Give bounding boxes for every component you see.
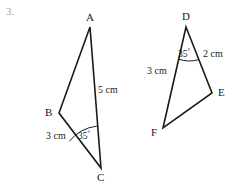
triangle-diagram-canvas bbox=[0, 0, 241, 184]
side-bc-length-label: 3 cm bbox=[46, 131, 66, 141]
side-de-length-label: 2 cm bbox=[203, 49, 223, 59]
triangle-def-outline bbox=[163, 27, 212, 128]
angle-d-degree-symbol: ° bbox=[188, 47, 191, 54]
side-ca-length-label: 5 cm bbox=[98, 85, 118, 95]
angle-c-degree-symbol: ° bbox=[88, 129, 91, 136]
angle-d-value: 35 bbox=[178, 49, 188, 59]
angle-d-label: 35° bbox=[178, 48, 190, 60]
vertex-label-d: D bbox=[182, 11, 190, 22]
triangle-def bbox=[163, 27, 212, 128]
geometry-figure: 3. A B C 5 cm 3 cm 35° D E F 2 cm 3 cm 3… bbox=[0, 0, 241, 184]
triangle-abc-outline bbox=[59, 27, 101, 168]
side-df-length-label: 3 cm bbox=[147, 66, 167, 76]
angle-c-value: 35 bbox=[78, 131, 88, 141]
vertex-label-c: C bbox=[97, 172, 104, 183]
angle-c-label: 35° bbox=[78, 130, 90, 142]
triangle-abc bbox=[59, 27, 101, 168]
vertex-label-f: F bbox=[151, 127, 157, 138]
vertex-label-e: E bbox=[218, 87, 225, 98]
vertex-label-a: A bbox=[86, 12, 94, 23]
vertex-label-b: B bbox=[45, 107, 52, 118]
